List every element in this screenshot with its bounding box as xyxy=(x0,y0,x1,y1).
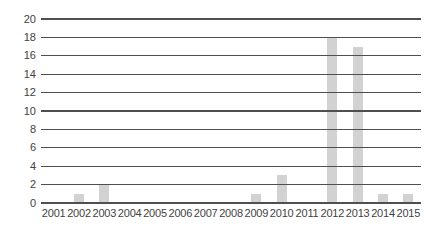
x-axis-label: 2014 xyxy=(370,207,396,220)
gridline xyxy=(41,129,421,130)
y-axis-label: 6 xyxy=(0,141,36,154)
y-axis-label: 18 xyxy=(0,31,36,44)
gridline xyxy=(41,202,421,203)
gridline xyxy=(41,110,421,111)
x-axis-label: 2010 xyxy=(269,207,295,220)
y-axis-label: 20 xyxy=(0,13,36,26)
bar-chart: 02468101214161820 2001200220032004200520… xyxy=(0,0,437,231)
x-axis-label: 2003 xyxy=(91,207,117,220)
gridline xyxy=(41,147,421,148)
gridline xyxy=(41,166,421,167)
gridline xyxy=(41,37,421,38)
x-axis-label: 2008 xyxy=(218,207,244,220)
x-axis-label: 2004 xyxy=(117,207,143,220)
y-axis-label: 0 xyxy=(0,197,36,210)
x-axis-label: 2009 xyxy=(243,207,269,220)
x-axis-label: 2006 xyxy=(167,207,193,220)
x-axis-label: 2007 xyxy=(193,207,219,220)
y-axis-label: 12 xyxy=(0,86,36,99)
gridline xyxy=(41,55,421,56)
x-axis-label: 2002 xyxy=(66,207,92,220)
y-axis-label: 2 xyxy=(0,178,36,191)
gridline xyxy=(41,18,421,19)
x-axis-label: 2011 xyxy=(294,207,320,220)
y-axis-label: 8 xyxy=(0,123,36,136)
x-axis-label: 2015 xyxy=(395,207,421,220)
x-axis-label: 2005 xyxy=(142,207,168,220)
y-axis-label: 10 xyxy=(0,105,36,118)
gridline xyxy=(41,184,421,185)
y-axis-label: 4 xyxy=(0,160,36,173)
x-axis-label: 2012 xyxy=(319,207,345,220)
y-axis-label: 14 xyxy=(0,68,36,81)
gridlines-layer xyxy=(41,19,421,203)
gridline xyxy=(41,74,421,75)
gridline xyxy=(41,92,421,93)
x-axis-label: 2001 xyxy=(41,207,67,220)
y-axis-label: 16 xyxy=(0,49,36,62)
x-axis-label: 2013 xyxy=(345,207,371,220)
plot-area xyxy=(41,19,421,203)
